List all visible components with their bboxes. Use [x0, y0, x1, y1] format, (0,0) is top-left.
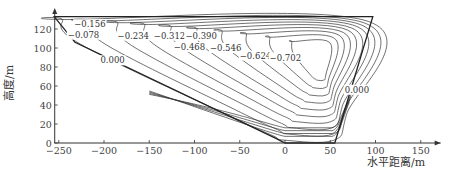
contour-label: −0.468: [174, 42, 205, 52]
x-tick-label: 150: [412, 145, 430, 156]
contour-label: −0.234: [118, 31, 149, 41]
contour-label: −0.312: [154, 31, 185, 41]
contour-label: −0.546: [210, 43, 241, 53]
x-axis-label: 水平距离/m: [367, 155, 426, 169]
x-tick-label: −50: [230, 145, 250, 156]
contour-label: −0.624: [240, 51, 271, 61]
y-tick-label: 40: [40, 100, 52, 111]
y-tick-label: 60: [40, 81, 52, 92]
y-tick-label: 0: [46, 138, 52, 149]
x-tick-label: −150: [136, 145, 162, 156]
y-tick-label: 80: [40, 62, 52, 73]
x-tick-label: 100: [366, 145, 384, 156]
contour-label: −0.390: [185, 31, 216, 41]
contour-label: −0.156: [74, 19, 105, 29]
y-axis-label: 高度/m: [2, 64, 16, 101]
x-tick-label: −200: [91, 145, 117, 156]
y-tick-label: 20: [40, 119, 52, 130]
y-tick-label: 120: [34, 24, 52, 35]
y-axis-arrow-icon: [52, 8, 57, 14]
contour-label: −0.702: [270, 53, 301, 63]
contour-chart: −250−200−150−100−50050100150020406080100…: [0, 0, 457, 175]
x-tick-label: 0: [282, 145, 288, 156]
x-tick-label: 50: [324, 145, 336, 156]
contour-label: 0.000: [345, 85, 369, 95]
contour-label: 0.000: [100, 55, 124, 65]
x-tick-label: −100: [181, 145, 207, 156]
contour-line: [240, 31, 344, 96]
contour-label: −0.078: [68, 30, 99, 40]
contour-line: [214, 27, 351, 103]
x-axis-arrow-icon: [435, 141, 441, 146]
chart-canvas: −250−200−150−100−50050100150020406080100…: [0, 0, 457, 175]
y-tick-label: 100: [34, 43, 52, 54]
